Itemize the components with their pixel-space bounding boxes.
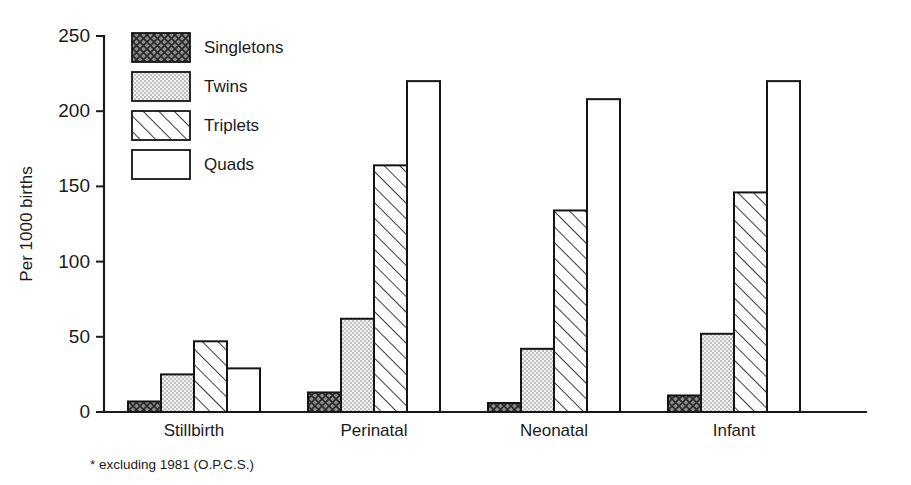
legend-swatch-quads	[132, 150, 190, 179]
footnote-text: * excluding 1981 (O.P.C.S.)	[90, 457, 254, 472]
x-axis-category-labels: StillbirthPerinatalNeonatalInfant	[164, 421, 756, 440]
category-label-perinatal: Perinatal	[340, 421, 407, 440]
legend-swatch-singletons	[132, 33, 190, 62]
y-axis-title: Per 1000 births	[17, 166, 36, 281]
bar-quads-neonatal	[587, 99, 620, 412]
y-tick-label: 50	[69, 326, 90, 347]
chart-figure: 050100150200250 Per 1000 births Stillbir…	[0, 0, 911, 485]
category-label-infant: Infant	[713, 421, 756, 440]
bar-quads-perinatal	[407, 81, 440, 412]
legend-swatch-twins	[132, 72, 190, 101]
legend-label-triplets: Triplets	[204, 116, 259, 135]
legend-label-twins: Twins	[204, 77, 247, 96]
bar-triplets-stillbirth	[194, 341, 227, 412]
bar-triplets-neonatal	[554, 210, 587, 412]
bar-twins-neonatal	[521, 349, 554, 412]
bar-triplets-perinatal	[374, 165, 407, 412]
bar-twins-stillbirth	[161, 374, 194, 412]
bar-twins-infant	[701, 334, 734, 412]
bar-quads-infant	[767, 81, 800, 412]
y-axis-ticks	[96, 36, 104, 412]
bar-triplets-infant	[734, 192, 767, 412]
y-axis-title-text: Per 1000 births	[17, 166, 36, 281]
chart-legend: SingletonsTwinsTripletsQuads	[132, 33, 283, 179]
bar-twins-perinatal	[341, 319, 374, 412]
y-tick-label: 250	[58, 25, 90, 46]
y-tick-label: 0	[79, 401, 90, 422]
category-label-neonatal: Neonatal	[520, 421, 588, 440]
bar-chart: 050100150200250 Per 1000 births Stillbir…	[0, 0, 911, 485]
bar-singletons-neonatal	[488, 403, 521, 412]
bar-singletons-perinatal	[308, 392, 341, 412]
bar-singletons-stillbirth	[128, 401, 161, 412]
legend-label-quads: Quads	[204, 155, 254, 174]
bar-singletons-infant	[668, 395, 701, 412]
bar-quads-stillbirth	[227, 368, 260, 412]
y-axis-tick-labels: 050100150200250	[58, 25, 90, 422]
legend-swatch-triplets	[132, 111, 190, 140]
y-tick-label: 150	[58, 175, 90, 196]
y-tick-label: 100	[58, 251, 90, 272]
legend-label-singletons: Singletons	[204, 38, 283, 57]
category-label-stillbirth: Stillbirth	[164, 421, 224, 440]
y-tick-label: 200	[58, 100, 90, 121]
